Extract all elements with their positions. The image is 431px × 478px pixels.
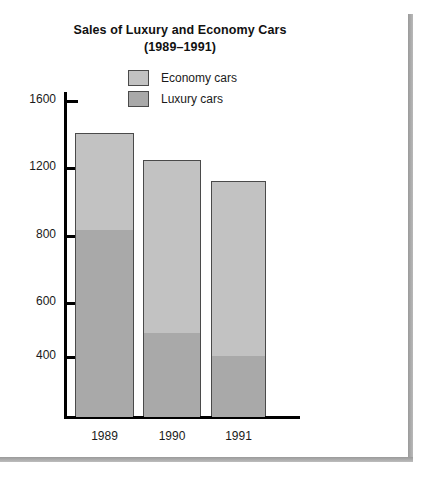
bar-segment-luxury-1990: [144, 333, 200, 417]
plot-area: 16001200800600400 198919901991: [0, 0, 410, 462]
bar-segment-economy-1989: [76, 134, 133, 230]
bar-segment-luxury-1991: [212, 356, 265, 417]
y-axis-tick-label: 600: [2, 294, 56, 308]
bar-1989: [75, 133, 134, 416]
y-axis-tick-label: 1600: [2, 92, 56, 106]
bar-segment-luxury-1989: [76, 230, 133, 417]
chart-figure: Sales of Luxury and Economy Cars (1989–1…: [0, 0, 410, 462]
bar-segment-economy-1990: [144, 161, 200, 333]
bar-1990: [143, 160, 201, 416]
x-axis-tick-label: 1989: [70, 429, 140, 443]
y-axis-line: [64, 92, 67, 419]
bar-1991: [211, 181, 266, 416]
bar-segment-economy-1991: [212, 182, 265, 356]
y-axis-tick: [67, 100, 78, 103]
y-axis-tick-label: 400: [2, 348, 56, 362]
y-axis-tick-label: 800: [2, 227, 56, 241]
x-axis-tick-label: 1990: [137, 429, 207, 443]
y-axis-tick-label: 1200: [2, 159, 56, 173]
x-axis-tick-label: 1991: [204, 429, 274, 443]
page-edge-bottom: [0, 457, 413, 462]
page-edge-right: [408, 14, 413, 461]
